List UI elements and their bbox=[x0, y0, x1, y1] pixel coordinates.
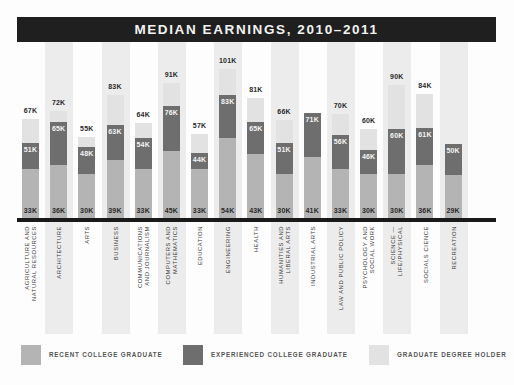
label-experienced: 65K bbox=[243, 125, 268, 132]
category-label: AGRICULTURE AND NATURAL RESOURCES bbox=[24, 226, 38, 301]
background-band bbox=[468, 42, 496, 334]
category-column: 66K51K30KHUMANITIES AND LIBERAL ARTS bbox=[271, 42, 299, 334]
label-experienced: 51K bbox=[18, 146, 43, 153]
label-graduate: 57K bbox=[187, 122, 212, 129]
category-label: BUSINESS bbox=[112, 226, 119, 260]
label-recent: 29K bbox=[441, 207, 466, 214]
label-graduate: 60K bbox=[356, 117, 381, 124]
label-experienced: 65K bbox=[46, 125, 71, 132]
segment-graduate bbox=[388, 85, 405, 129]
label-recent: 30K bbox=[74, 207, 99, 214]
category-label: ARTS bbox=[84, 226, 91, 244]
label-recent: 33K bbox=[18, 207, 43, 214]
category-column: 90K60K30KSCIENCE — LIFE/PHYSICAL bbox=[383, 42, 411, 334]
label-recent: 36K bbox=[46, 207, 71, 214]
label-graduate: 101K bbox=[215, 57, 240, 64]
legend-label: GRADUATE DEGREE HOLDER bbox=[397, 351, 507, 358]
category-label: LAW AND PUBLIC POLICY bbox=[338, 226, 345, 310]
segment-graduate bbox=[78, 137, 95, 147]
legend-label: EXPERIENCED COLLEGE GRADUATE bbox=[211, 351, 348, 358]
label-experienced: 71K bbox=[300, 116, 325, 123]
segment-graduate bbox=[276, 120, 293, 142]
category-label: RECREATION bbox=[450, 226, 457, 270]
label-recent: 39K bbox=[103, 207, 128, 214]
label-graduate: 70K bbox=[328, 102, 353, 109]
category-label: HUMANITIES AND LIBERAL ARTS bbox=[278, 226, 292, 284]
legend: RECENT COLLEGE GRADUATE EXPERIENCED COLL… bbox=[0, 345, 514, 365]
legend-swatch-experienced bbox=[183, 345, 203, 365]
label-experienced: 48K bbox=[74, 150, 99, 157]
category-label: EDUCATION bbox=[197, 226, 204, 265]
label-experienced: 61K bbox=[412, 131, 437, 138]
category-label: COMPUTERS AND MATHEMATICS bbox=[165, 226, 179, 284]
label-experienced: 83K bbox=[215, 98, 240, 105]
label-recent: 43K bbox=[243, 207, 268, 214]
label-graduate: 90K bbox=[384, 73, 409, 80]
category-label: HEALTH bbox=[253, 226, 260, 252]
label-recent: 45K bbox=[159, 207, 184, 214]
category-label: SOCIALS CIENCE bbox=[422, 226, 429, 283]
category-column: 60K46K30KPSYCHOLOGY AND SOCIAL WORK bbox=[355, 42, 383, 334]
segment-graduate bbox=[50, 111, 67, 121]
label-recent: 33K bbox=[328, 207, 353, 214]
category-label: PSYCHOLOGY AND SOCIAL WORK bbox=[362, 226, 376, 288]
category-column: 57K44K33KEDUCATION bbox=[186, 42, 214, 334]
category-column: 84K61K36KSOCIALS CIENCE bbox=[411, 42, 439, 334]
label-recent: 33K bbox=[131, 207, 156, 214]
category-column: 83K63K39KBUSINESS bbox=[102, 42, 130, 334]
label-experienced: 44K bbox=[187, 156, 212, 163]
label-graduate: 67K bbox=[18, 107, 43, 114]
label-recent: 30K bbox=[356, 207, 381, 214]
label-graduate: 55K bbox=[74, 125, 99, 132]
label-experienced: 76K bbox=[159, 109, 184, 116]
chart-title: MEDIAN EARNINGS, 2010–2011 bbox=[17, 17, 496, 42]
label-graduate: 91K bbox=[159, 71, 184, 78]
category-column: 64K54K33KCOMMUNICATIONS AND JOURNALISM bbox=[130, 42, 158, 334]
label-recent: 41K bbox=[300, 207, 325, 214]
label-recent: 30K bbox=[384, 207, 409, 214]
category-label: ARCHITECTURE bbox=[56, 226, 63, 279]
category-column: 55K48K30KARTS bbox=[73, 42, 101, 334]
label-experienced: 56K bbox=[328, 138, 353, 145]
legend-label: RECENT COLLEGE GRADUATE bbox=[49, 351, 162, 358]
category-label: INDUSTRIAL ARTS bbox=[309, 226, 316, 286]
segment-recent bbox=[219, 138, 236, 218]
category-label: ENGINEERING bbox=[225, 226, 232, 273]
category-column: 50K29KRECREATION bbox=[440, 42, 468, 334]
category-column: 101K83K54KENGINEERING bbox=[214, 42, 242, 334]
category-label: COMMUNICATIONS AND JOURNALISM bbox=[137, 226, 151, 288]
category-column: 67K51K33KAGRICULTURE AND NATURAL RESOURC… bbox=[17, 42, 45, 334]
label-recent: 54K bbox=[215, 207, 240, 214]
segment-graduate bbox=[135, 123, 152, 138]
label-experienced: 63K bbox=[103, 128, 128, 135]
label-experienced: 50K bbox=[441, 147, 466, 154]
segment-graduate bbox=[22, 119, 39, 143]
segment-graduate bbox=[360, 129, 377, 150]
label-graduate: 64K bbox=[131, 111, 156, 118]
category-column: 72K65K36KARCHITECTURE bbox=[45, 42, 73, 334]
segment-graduate bbox=[332, 114, 349, 135]
legend-swatch-graduate bbox=[369, 345, 389, 365]
label-experienced: 46K bbox=[356, 153, 381, 160]
label-experienced: 60K bbox=[384, 132, 409, 139]
category-column: 91K76K45KCOMPUTERS AND MATHEMATICS bbox=[158, 42, 186, 334]
legend-swatch-recent bbox=[21, 345, 41, 365]
label-recent: 33K bbox=[187, 207, 212, 214]
chart-area: 67K51K33KAGRICULTURE AND NATURAL RESOURC… bbox=[17, 42, 496, 334]
label-graduate: 81K bbox=[243, 86, 268, 93]
category-label: SCIENCE — LIFE/PHYSICAL bbox=[390, 226, 404, 276]
label-experienced: 54K bbox=[131, 141, 156, 148]
segment-graduate bbox=[219, 69, 236, 96]
segment-graduate bbox=[191, 134, 208, 153]
category-column: 71K41KINDUSTRIAL ARTS bbox=[299, 42, 327, 334]
category-column: 81K65K43KHEALTH bbox=[242, 42, 270, 334]
segment-graduate bbox=[163, 83, 180, 105]
label-graduate: 66K bbox=[272, 108, 297, 115]
segment-graduate bbox=[247, 98, 264, 122]
label-experienced: 51K bbox=[272, 146, 297, 153]
segment-graduate bbox=[416, 94, 433, 128]
label-graduate: 84K bbox=[412, 82, 437, 89]
label-graduate: 83K bbox=[103, 83, 128, 90]
category-column: 70K56K33KLAW AND PUBLIC POLICY bbox=[327, 42, 355, 334]
label-recent: 30K bbox=[272, 207, 297, 214]
